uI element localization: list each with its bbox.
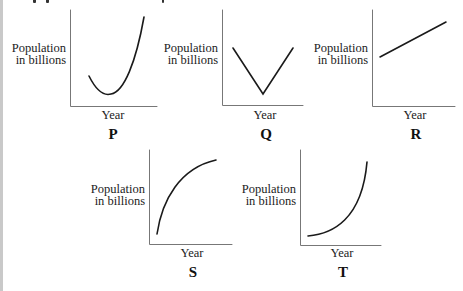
graph-r-y-label: Population in billions	[314, 42, 368, 66]
y-label-line2: in billions	[242, 195, 296, 207]
graph-q-curve	[233, 48, 293, 94]
graph-p-axes	[71, 10, 158, 107]
graph-s-curve	[157, 160, 216, 234]
graph-p	[71, 10, 158, 107]
graph-r-curve	[380, 22, 446, 57]
graph-t-curve	[308, 162, 367, 236]
graph-t-y-label: Population in billions	[242, 183, 296, 207]
y-label-line2: in billions	[12, 54, 66, 66]
graph-s-x-label: Year	[180, 246, 203, 261]
graph-r-letter: R	[411, 126, 422, 143]
graph-p-letter: P	[108, 126, 117, 143]
graph-r	[373, 10, 456, 107]
y-label-line2: in billions	[314, 54, 368, 66]
graph-t	[301, 150, 382, 246]
graph-s-letter: S	[189, 264, 197, 281]
graph-t-axes	[301, 150, 382, 246]
y-label-line2: in billions	[91, 195, 145, 207]
graphs-canvas	[0, 0, 463, 291]
graph-s-axes	[150, 150, 233, 245]
graph-s-y-label: Population in billions	[91, 183, 145, 207]
graph-p-y-label: Population in billions	[12, 42, 66, 66]
graph-p-curve	[89, 17, 144, 94]
graph-t-letter: T	[338, 264, 348, 281]
graph-q-axes	[223, 10, 304, 106]
graph-r-x-label: Year	[403, 108, 426, 123]
graph-q-letter: Q	[260, 126, 272, 143]
graph-q-x-label: Year	[253, 108, 276, 123]
graph-s	[150, 150, 233, 245]
graph-q	[223, 10, 304, 106]
graph-t-x-label: Year	[330, 246, 353, 261]
graph-p-x-label: Year	[101, 108, 124, 123]
y-label-line2: in billions	[164, 54, 218, 66]
graph-q-y-label: Population in billions	[164, 42, 218, 66]
